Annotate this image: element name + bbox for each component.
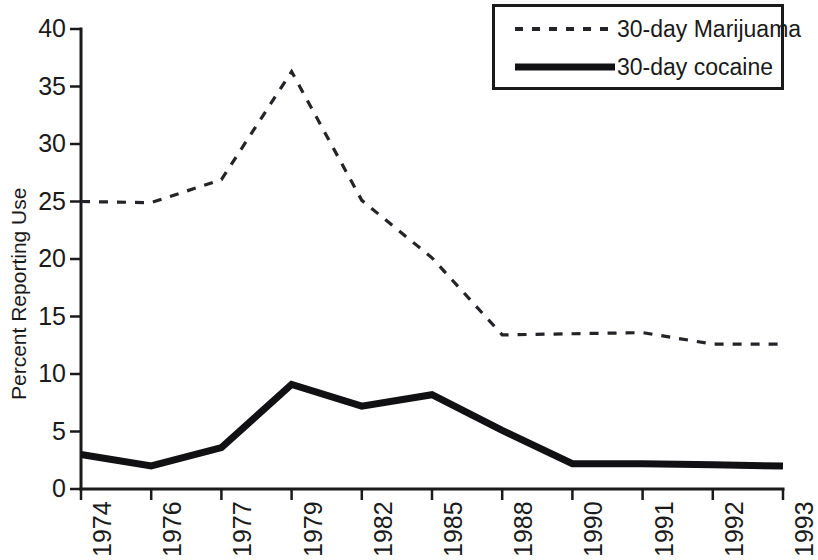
series-line-marijuana: [81, 72, 783, 345]
x-tick-label: 1976: [160, 501, 185, 557]
legend-label-cocaine: 30-day cocaine: [617, 56, 773, 79]
y-tick-label: 10: [10, 361, 66, 386]
x-tick-label: 1993: [792, 501, 817, 557]
x-tick-label: 1977: [230, 501, 255, 557]
x-tick-label: 1990: [581, 501, 606, 557]
x-tick-label: 1974: [90, 501, 115, 557]
chart-legend: 30-day Marijuama 30-day cocaine: [492, 4, 784, 90]
x-tick-label: 1988: [511, 501, 536, 557]
legend-swatch-solid-icon: [513, 60, 617, 74]
x-tick-label: 1985: [441, 501, 466, 557]
y-tick-label: 25: [10, 189, 66, 214]
y-tick-label: 20: [10, 246, 66, 271]
data-series-group: [81, 72, 783, 466]
legend-entry-marijuana: 30-day Marijuama: [495, 9, 781, 49]
x-tick-label: 1982: [371, 501, 396, 557]
legend-entry-cocaine: 30-day cocaine: [495, 47, 781, 87]
y-tick-label: 0: [10, 476, 66, 501]
y-axis-ticks: [70, 29, 81, 489]
legend-label-marijuana: 30-day Marijuama: [617, 18, 801, 41]
y-tick-label: 35: [10, 74, 66, 99]
y-tick-label: 15: [10, 304, 66, 329]
axes: [70, 29, 783, 500]
x-tick-label: 1992: [722, 501, 747, 557]
y-tick-label: 40: [10, 16, 66, 41]
x-tick-label: 1979: [301, 501, 326, 557]
series-line-cocaine: [81, 384, 783, 466]
x-axis-ticks: [81, 489, 783, 500]
legend-swatch-dashed-icon: [513, 22, 617, 36]
y-tick-label: 5: [10, 419, 66, 444]
y-tick-label: 30: [10, 131, 66, 156]
x-tick-label: 1991: [652, 501, 677, 557]
